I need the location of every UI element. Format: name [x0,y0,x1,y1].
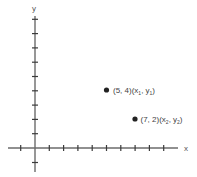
point-1-marker [104,87,109,92]
x-axis-label: x [184,144,188,153]
coordinate-plane: y x (5, 4)(x1, y1) (7, 2)(x2, y2) [0,0,197,177]
point-2-marker [132,116,137,121]
point-1-label: (5, 4)(x1, y1) [113,86,155,96]
point-2-label: (7, 2)(x2, y2) [141,115,183,125]
y-axis-label: y [32,4,36,13]
